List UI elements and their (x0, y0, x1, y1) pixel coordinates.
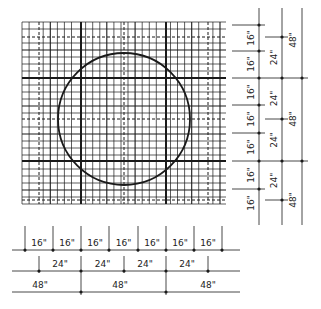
dimension-dot (79, 290, 82, 293)
dimension-dot (220, 248, 223, 251)
label-24in: 24" (179, 259, 195, 269)
dimension-dot (107, 248, 110, 251)
dimension-dot (51, 248, 54, 251)
dimension-dot (280, 76, 283, 79)
dimension-dot (280, 198, 283, 201)
dimension-dot (164, 290, 167, 293)
dimension-dot (300, 159, 303, 162)
label-48in: 48" (288, 192, 298, 208)
label-16in: 16" (31, 238, 47, 248)
label-24in: 24" (269, 173, 279, 189)
grid-lines (22, 22, 226, 204)
label-48in: 48" (200, 280, 216, 290)
dimension-dot (257, 103, 260, 106)
right-dimensions: 16"16"16"16"16"16"16"24"24"24"24"48"48"4… (232, 8, 308, 225)
dimension-dot (164, 269, 167, 272)
label-48in: 48" (32, 280, 48, 290)
label-16in: 16" (246, 84, 256, 100)
label-24in: 24" (52, 259, 68, 269)
label-16in: 16" (246, 139, 256, 155)
label-16in: 16" (87, 238, 103, 248)
dimension-dot (257, 187, 260, 190)
label-48in: 48" (112, 280, 128, 290)
dimension-dot (122, 269, 125, 272)
label-16in: 16" (246, 56, 256, 72)
label-16in: 16" (246, 195, 256, 211)
dimension-dot (206, 269, 209, 272)
dimension-dot (257, 131, 260, 134)
dimension-dot (192, 248, 195, 251)
label-48in: 48" (288, 32, 298, 48)
label-16in: 16" (246, 30, 256, 46)
dimension-dot (37, 269, 40, 272)
dimension-dot (280, 35, 283, 38)
dimension-dot (257, 23, 260, 26)
label-24in: 24" (269, 91, 279, 107)
dimension-dot (257, 76, 260, 79)
label-48in: 48" (288, 111, 298, 127)
dimension-dot (23, 248, 26, 251)
bottom-dimensions: 16"16"16"16"16"16"16"24"24"24"24"48"48"4… (12, 226, 240, 295)
dimension-dot (280, 159, 283, 162)
dimension-dot (300, 76, 303, 79)
label-24in: 24" (269, 50, 279, 66)
label-16in: 16" (246, 111, 256, 127)
label-16in: 16" (144, 238, 160, 248)
dimension-dot (257, 159, 260, 162)
grid-diagram: 16"16"16"16"16"16"16"24"24"24"24"48"48"4… (0, 0, 321, 309)
dimension-dot (79, 248, 82, 251)
label-24in: 24" (137, 259, 153, 269)
label-16in: 16" (246, 167, 256, 183)
dimension-dot (79, 269, 82, 272)
label-16in: 16" (116, 238, 132, 248)
label-16in: 16" (59, 238, 75, 248)
dimension-dot (164, 248, 167, 251)
dimension-dot (280, 117, 283, 120)
dimension-dot (136, 248, 139, 251)
label-24in: 24" (269, 132, 279, 148)
label-24in: 24" (95, 259, 111, 269)
label-16in: 16" (172, 238, 188, 248)
label-16in: 16" (200, 238, 216, 248)
dimension-dot (257, 49, 260, 52)
